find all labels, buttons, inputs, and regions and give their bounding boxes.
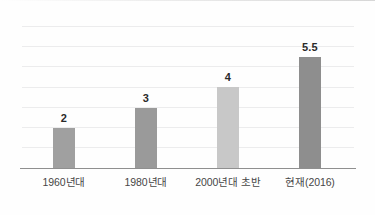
bar	[217, 87, 239, 168]
bar-value-label: 5.5	[302, 41, 318, 53]
plot-area: 2 3 4 5.5	[22, 26, 354, 168]
bar-group: 2	[26, 26, 102, 168]
bar-value-label: 3	[143, 92, 149, 104]
bar	[299, 57, 321, 168]
bar	[53, 128, 75, 168]
bar-value-label: 4	[225, 71, 231, 83]
x-axis-labels: 1960년대 1980년대 2000년대 초반 현재(2016)	[22, 174, 354, 198]
bar	[135, 108, 157, 168]
x-axis-line	[20, 168, 356, 169]
bar-chart-figure: 2 3 4 5.5 1960년대 1980년대 2000년대 초반 현재(201…	[0, 0, 375, 215]
bar-group: 3	[108, 26, 184, 168]
bar-group: 5.5	[272, 26, 348, 168]
bar-value-label: 2	[61, 112, 67, 124]
x-axis-tick-label: 현재(2016)	[255, 174, 365, 189]
bar-group: 4	[190, 26, 266, 168]
bars-layer: 2 3 4 5.5	[22, 26, 354, 168]
